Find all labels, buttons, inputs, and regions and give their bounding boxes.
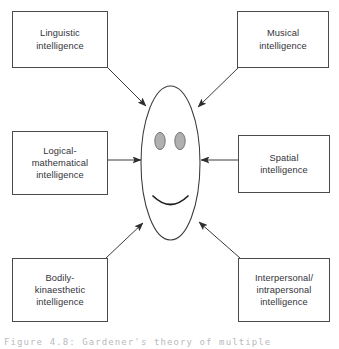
node-linguistic-intelligence[interactable]: Linguistic intelligence <box>12 11 108 68</box>
node-logical-mathematical-intelligence[interactable]: Logical- mathematical intelligence <box>12 131 108 195</box>
node-musical-intelligence[interactable]: Musical intelligence <box>237 11 329 68</box>
node-interpersonal-intrapersonal-intelligence-label: Interpersonal/ intrapersonal intelligenc… <box>255 272 313 309</box>
node-linguistic-intelligence-label: Linguistic intelligence <box>36 27 84 51</box>
arrow-bodily-to-face <box>106 223 143 258</box>
node-spatial-intelligence[interactable]: Spatial intelligence <box>238 135 330 193</box>
face-outline <box>141 86 200 240</box>
node-musical-intelligence-label: Musical intelligence <box>259 27 307 51</box>
node-spatial-intelligence-label: Spatial intelligence <box>260 152 308 176</box>
right-eye-icon <box>175 132 185 149</box>
diagram-canvas: Linguistic intelligence Musical intellig… <box>0 0 339 349</box>
arrow-linguistic-to-face <box>108 68 146 106</box>
node-bodily-kinaesthetic-intelligence[interactable]: Bodily- kinaesthetic intelligence <box>12 258 108 322</box>
node-logical-mathematical-intelligence-label: Logical- mathematical intelligence <box>32 145 89 182</box>
node-bodily-kinaesthetic-intelligence-label: Bodily- kinaesthetic intelligence <box>35 272 85 309</box>
left-eye-icon <box>155 132 165 149</box>
node-interpersonal-intrapersonal-intelligence[interactable]: Interpersonal/ intrapersonal intelligenc… <box>238 258 330 322</box>
arrow-interpersonal-to-face <box>199 222 240 258</box>
figure-caption: Figure 4.8: Gardener's theory of multipl… <box>4 336 304 349</box>
arrow-musical-to-face <box>198 68 238 107</box>
